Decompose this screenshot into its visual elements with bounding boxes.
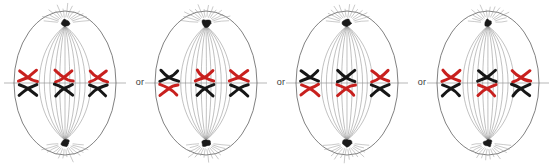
chromosome [442,84,459,96]
centrosome [342,19,352,26]
cell-drawing [423,0,553,165]
cell-arrangement-2 [141,0,271,165]
cell-drawing [0,0,130,165]
cell-drawing [141,0,271,165]
cell-arrangement-1 [0,0,130,165]
centrosome [483,139,492,146]
centrosome [342,140,352,148]
chromosome [90,71,108,82]
chromosome [229,71,248,82]
or-separator-3: or [413,78,431,87]
cell-arrangement-3 [282,0,412,165]
centrosome [202,20,211,28]
chromosome [160,70,179,81]
centrosome [61,19,70,26]
chromosome [160,84,178,95]
aster-rays [181,5,230,22]
chromosome [512,71,530,82]
chromosome [371,85,389,96]
centrosome [202,140,211,147]
chromosome [301,71,319,81]
or-separator-1: or [131,78,149,87]
chromosome [301,84,319,95]
chromosome [372,70,389,82]
cell-drawing [282,0,412,165]
chromosome [442,70,460,81]
or-separator-2: or [272,78,290,87]
meiosis-metaphase-diagram: ororor [0,0,553,165]
cell-arrangement-4 [423,0,553,165]
aster-rays [43,3,90,22]
chromosome [512,84,530,96]
chromosome [89,85,107,96]
centrosome [61,139,69,146]
chromosome [19,85,37,96]
chromosome [55,70,73,82]
chromosome [19,70,38,81]
chromosome [230,85,248,96]
chromosome [337,85,355,96]
centrosome [485,19,492,27]
